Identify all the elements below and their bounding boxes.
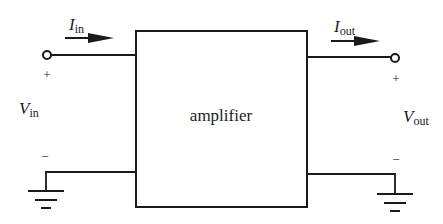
amplifier-diagram: amplifier Iin + Vin − Iout + Vout − [0,0,443,224]
input-current-arrow-icon [65,33,114,43]
input-plus-sign: + [43,67,50,82]
input-terminal [43,51,51,59]
amplifier-label: amplifier [190,106,253,125]
output-terminal [391,54,399,62]
output-plus-sign: + [392,71,399,86]
output-minus-sign: − [392,152,399,167]
output-ground-icon [377,194,413,211]
input-minus-sign: − [41,149,48,164]
input-voltage-label: Vin [19,99,39,120]
input-current-label: Iin [68,15,84,36]
output-voltage-label: Vout [403,107,429,128]
input-ground-icon [28,191,64,208]
output-ground-wire [307,174,395,194]
output-current-arrow-icon [331,36,380,46]
input-ground-wire [46,172,136,191]
output-current-label: Iout [333,17,356,38]
